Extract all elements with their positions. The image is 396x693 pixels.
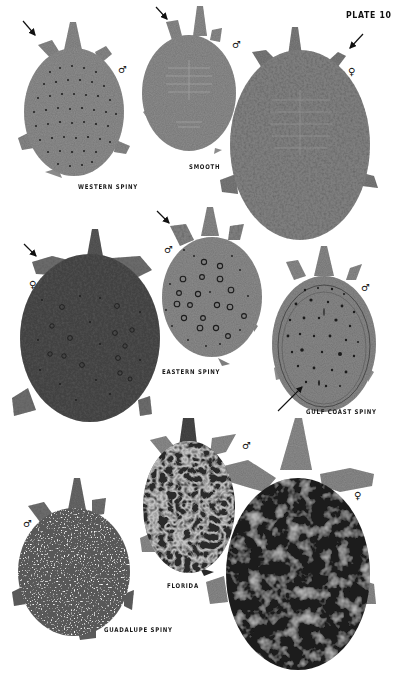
male-symbol-icon: ♂ <box>232 40 241 50</box>
female-symbol-icon: ♀ <box>348 67 355 77</box>
arrow-icon <box>350 34 363 48</box>
female-symbol-icon: ♀ <box>354 491 361 501</box>
label-guadalupe-spiny: GUADALUPE SPINY <box>104 626 173 634</box>
arrow-icon <box>24 244 36 256</box>
turtle-smooth-male <box>142 6 236 154</box>
male-symbol-icon: ♂ <box>118 65 127 75</box>
turtle-guadalupe-spiny <box>12 478 134 640</box>
arrow-icon <box>156 7 167 19</box>
turtle-florida-female <box>206 418 376 670</box>
turtle-florida-male <box>140 418 236 576</box>
male-symbol-icon: ♂ <box>242 441 251 451</box>
label-florida: FLORIDA <box>167 582 199 590</box>
turtle-eastern-spiny-male <box>157 207 262 366</box>
label-gulf-coast-spiny: GULF COAST SPINY <box>306 408 377 416</box>
turtle-eastern-spiny-female <box>12 229 160 422</box>
label-western-spiny: WESTERN SPINY <box>78 183 138 191</box>
label-eastern-spiny: EASTERN SPINY <box>162 368 220 376</box>
male-symbol-icon: ♂ <box>23 519 32 529</box>
male-symbol-icon: ♂ <box>361 283 370 293</box>
female-symbol-icon: ♀ <box>29 280 36 290</box>
label-smooth: SMOOTH <box>189 163 220 171</box>
plate-title: PLATE 10 <box>346 9 392 20</box>
turtle-gulf-coast-spiny <box>272 246 376 412</box>
turtle-smooth-female <box>220 27 378 240</box>
turtle-western-spiny <box>18 21 130 178</box>
arrow-icon <box>23 21 35 35</box>
arrow-icon <box>157 211 169 223</box>
male-symbol-icon: ♂ <box>164 245 173 255</box>
